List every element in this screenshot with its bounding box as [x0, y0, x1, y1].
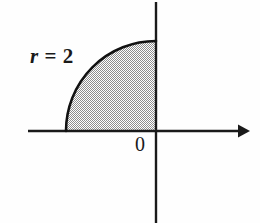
- figure-canvas: r = 2 0: [0, 0, 260, 223]
- radius-value: 2: [63, 44, 74, 68]
- x-axis-arrowhead-icon: [238, 125, 250, 138]
- origin-label: 0: [135, 134, 145, 154]
- figure-svg: [0, 0, 260, 223]
- radius-equals-sign: =: [39, 44, 63, 68]
- radius-variable: r: [30, 44, 39, 68]
- radius-label: r = 2: [30, 46, 74, 67]
